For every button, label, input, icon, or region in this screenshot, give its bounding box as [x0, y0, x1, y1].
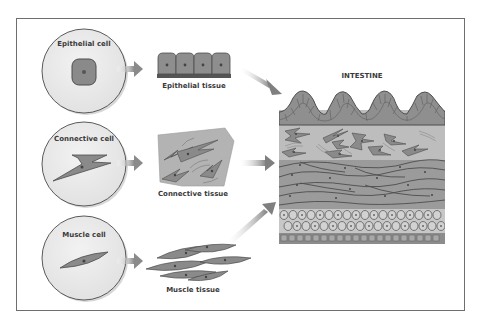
muscle-cell-label: Muscle cell	[62, 231, 106, 239]
connective-tissue-icon	[158, 128, 234, 186]
muscle-tissue-label: Muscle tissue	[166, 286, 220, 294]
epithelial-tissue-icon	[157, 53, 231, 78]
tissue-organization-diagram: Epithelial cell Epithelial tissue Connec…	[0, 0, 479, 327]
epithelial-tissue-label: Epithelial tissue	[162, 82, 226, 90]
connective-cell-label: Connective cell	[54, 135, 114, 143]
intestine-cross-section	[279, 91, 445, 244]
epithelial-cell-label: Epithelial cell	[57, 40, 110, 48]
intestine-title: INTESTINE	[341, 72, 382, 80]
connective-tissue-label: Connective tissue	[158, 190, 228, 198]
